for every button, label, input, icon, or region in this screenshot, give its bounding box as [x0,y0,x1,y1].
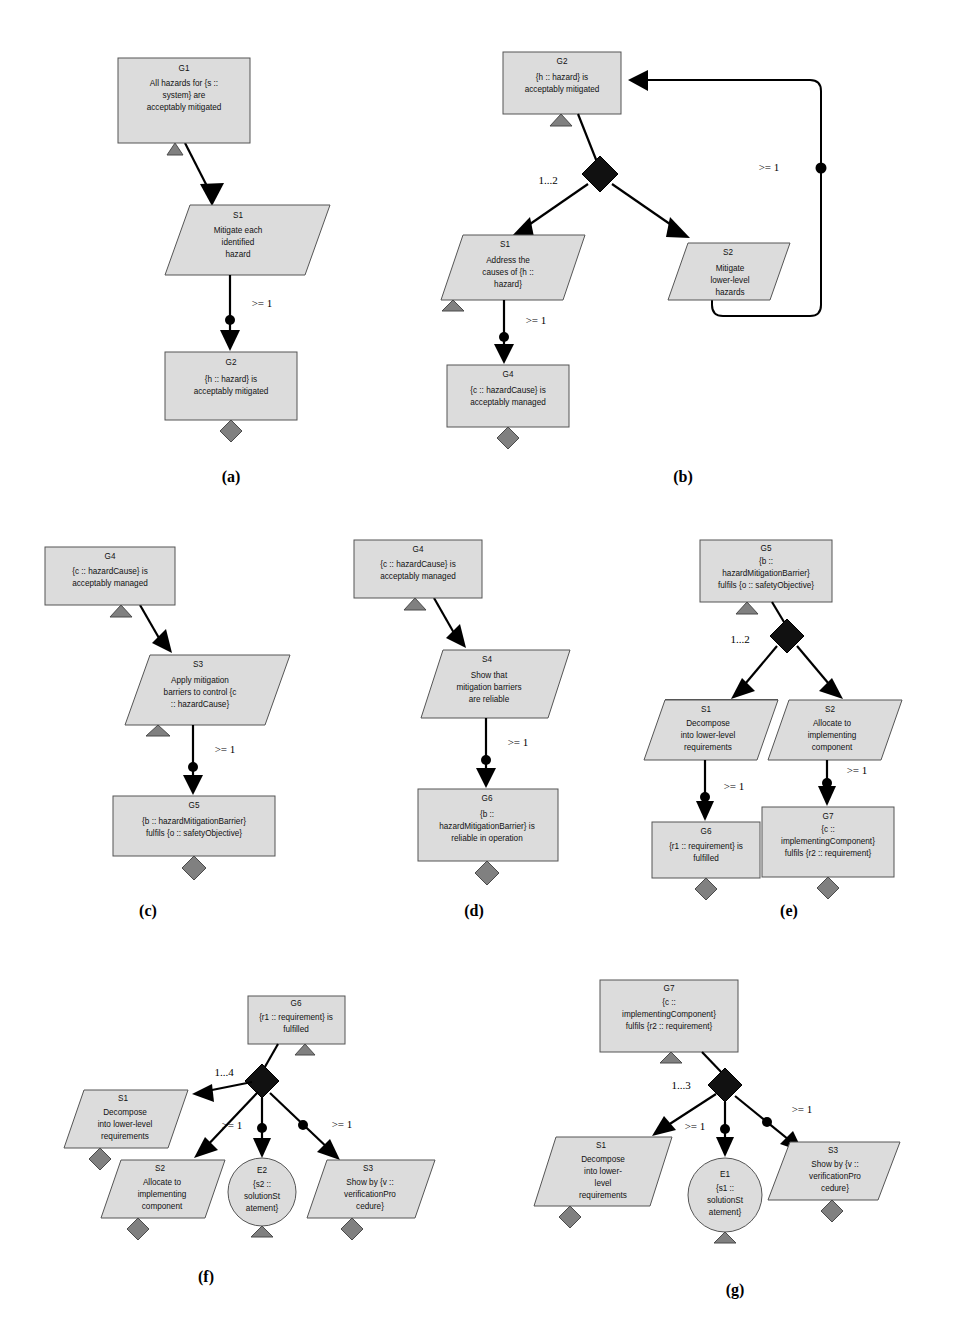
node-g7-e[interactable]: G7 {c :: implementingComponent} fulfils … [762,807,894,877]
node-g4-c-line2: acceptably managed [72,579,148,588]
node-s3-c[interactable]: S3 Apply mitigation barriers to control … [125,655,290,725]
edge-s2-g7-e: >= 1 [818,760,867,806]
multiplicity-g-right: >= 1 [792,1103,813,1115]
node-s3-g[interactable]: S3 Show by {v :: verificationPro cedure} [768,1142,900,1200]
node-s1-f[interactable]: S1 Decompose into lower-level requiremen… [64,1090,188,1148]
node-g7-e-line3: fulfils {r2 :: requirement} [785,849,872,858]
node-g2-b[interactable]: G2 {h :: hazard} is acceptably mitigated [503,52,621,114]
panel-label-b: (b) [673,468,693,486]
node-g6-e-id: G6 [701,827,712,836]
node-e1-g[interactable]: E1 {s1 :: solutionSt atement} [688,1158,762,1232]
node-g5-c-id: G5 [189,801,200,810]
panel-label-d: (d) [464,902,484,920]
node-s1-b-line3: hazard} [494,280,522,289]
node-g6-f-line1: {r1 :: requirement} is [259,1013,333,1022]
node-s1-b[interactable]: S1 Address the causes of {h :: hazard} [441,235,585,300]
uninstantiated-diamond-icon-c [182,856,206,880]
multiplicity-b-loop: >= 1 [759,161,780,173]
node-g2-b-line1: {h :: hazard} is [536,73,588,82]
node-g4-c[interactable]: G4 {c :: hazardCause} is acceptably mana… [45,547,175,605]
node-s1-g-line1: Decompose [581,1155,625,1164]
uninstantiated-diamond-icon-f-s2 [127,1218,149,1240]
node-e1-g-line2: solutionSt [707,1196,744,1205]
node-g7-e-line1: {c :: [821,825,835,834]
node-g5-e[interactable]: G5 {b :: hazardMitigationBarrier} fulfil… [700,540,832,602]
node-s4-d-line2: mitigation barriers [456,683,521,692]
multiplicity-f-mid: >= 1 [222,1119,243,1131]
multiplicity-f-fork: 1...4 [214,1066,234,1078]
node-g6-f-id: G6 [291,999,302,1008]
node-s1-e[interactable]: S1 Decompose into lower-level requiremen… [644,700,778,760]
node-g6-e[interactable]: G6 {r1 :: requirement} is fulfilled [652,822,760,878]
node-s3-g-line2: verificationPro [809,1172,861,1181]
node-s1-g[interactable]: S1 Decompose into lower- level requireme… [534,1137,672,1206]
node-g6-d-id: G6 [482,794,493,803]
node-s1-f-id: S1 [118,1094,128,1103]
node-s3-f-line1: Show by {v :: [346,1178,393,1187]
node-s3-f-line3: cedure} [356,1202,384,1211]
uninstantiated-diamond-icon-f-s1 [89,1148,111,1170]
node-s1-line1: Mitigate each [214,226,263,235]
node-g2-b-line2: acceptably mitigated [525,85,600,94]
multiplicity-g-fork: 1...3 [671,1079,691,1091]
node-s1[interactable]: S1 Mitigate each identified hazard [165,205,330,275]
node-s2-b-line1: Mitigate [716,264,745,273]
uninstantiated-diamond-icon-d [475,861,499,885]
panel-c: G4 {c :: hazardCause} is acceptably mana… [45,547,290,920]
undeveloped-triangle-icon [167,143,183,155]
node-s2-e-id: S2 [825,705,835,714]
node-g6-d[interactable]: G6 {b :: hazardMitigationBarrier} is rel… [418,789,558,861]
edge-s4-g6-d: >= 1 [476,718,528,788]
node-s1-g-line4: requirements [579,1191,627,1200]
node-g2-line1: {h :: hazard} is [205,375,257,384]
node-g1-id: G1 [179,64,190,73]
node-g1[interactable]: G1 All hazards for {s :: system} are acc… [118,58,250,143]
node-g6-e-line1: {r1 :: requirement} is [669,842,743,851]
undeveloped-triangle-icon-g-e1 [714,1232,736,1243]
node-g4-b[interactable]: G4 {c :: hazardCause} is acceptably mana… [447,365,569,427]
node-e1-g-line3: atement} [709,1208,742,1217]
node-s3-f-line2: verificationPro [344,1190,396,1199]
undeveloped-triangle-icon-b-s1 [442,300,464,311]
node-e2-f[interactable]: E2 {s2 :: solutionSt atement} [228,1158,296,1226]
node-s2-e-line1: Allocate to [813,719,852,728]
node-s2-e[interactable]: S2 Allocate to implementing component [768,700,902,760]
panel-g: G7 {c :: implementingComponent} fulfils … [534,980,900,1299]
node-s3-f[interactable]: S3 Show by {v :: verificationPro cedure} [307,1160,435,1218]
panel-d: G4 {c :: hazardCause} is acceptably mana… [354,540,570,920]
edge-fork-s2-b [612,184,690,238]
node-s1-id: S1 [233,211,243,220]
node-s1-e-line2: into lower-level [681,731,736,740]
panel-e: G5 {b :: hazardMitigationBarrier} fulfil… [644,540,902,920]
undeveloped-triangle-icon-c [110,605,132,617]
edge-s1-g6-e: >= 1 [696,760,744,821]
edge-s1-g2: >= 1 [220,275,272,351]
node-s2-f[interactable]: S2 Allocate to implementing component [101,1160,225,1218]
edge-fork-s2-e [797,646,843,699]
node-s1-f-line3: requirements [101,1132,149,1141]
node-s4-d[interactable]: S4 Show that mitigation barriers are rel… [421,650,570,718]
node-g5-c[interactable]: G5 {b :: hazardMitigationBarrier} fulfil… [113,796,275,856]
node-g6-f-line2: fulfilled [283,1025,309,1034]
uninstantiated-diamond-icon-g-s1 [559,1206,581,1228]
node-s1-line2: identified [222,238,255,247]
node-s1-f-line2: into lower-level [98,1120,153,1129]
node-s1-b-line1: Address the [486,256,530,265]
edge-g7-fork-g [702,1052,724,1075]
node-g2[interactable]: G2 {h :: hazard} is acceptably mitigated [165,352,297,420]
node-s1-g-id: S1 [596,1141,606,1150]
node-g6-f[interactable]: G6 {r1 :: requirement} is fulfilled [248,996,345,1044]
node-g5-e-line1: {b :: [759,557,773,566]
panel-label-f: (f) [198,1268,214,1286]
node-g5-e-id: G5 [761,544,772,553]
undeveloped-triangle-icon-g [660,1052,682,1063]
node-g4-d[interactable]: G4 {c :: hazardCause} is acceptably mana… [354,540,482,598]
node-g7-g[interactable]: G7 {c :: implementingComponent} fulfils … [600,980,738,1052]
node-g7-g-line1: {c :: [662,998,676,1007]
node-s2-b[interactable]: S2 Mitigate lower-level hazards [668,243,790,300]
node-s2-b-line2: lower-level [710,276,749,285]
node-g7-g-line2: implementingComponent} [622,1010,716,1019]
edge-s3-g5-c: >= 1 [183,725,235,795]
multiplicity-c-1: >= 1 [215,743,236,755]
panel-a: G1 All hazards for {s :: system} are acc… [118,58,330,486]
